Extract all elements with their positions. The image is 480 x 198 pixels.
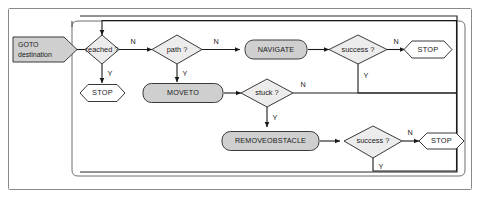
edge-label-path-yes: Y xyxy=(183,69,188,78)
flowchart-svg: path ? --> STOP (left) --> NAVIGATE --> … xyxy=(0,0,480,198)
reached-label: reached ? xyxy=(86,45,119,54)
flowchart-canvas: path ? --> STOP (left) --> NAVIGATE --> … xyxy=(0,0,480,198)
edge-success-bottom-yes xyxy=(373,158,457,171)
edge-label-success-top-yes: Y xyxy=(364,71,369,80)
start-label-line2: destination xyxy=(18,51,52,58)
success-bottom-label: success ? xyxy=(357,136,390,145)
edge-success-top-yes xyxy=(358,62,457,93)
edge-label-reached-yes: Y xyxy=(108,69,113,78)
stop-left-label: STOP xyxy=(92,88,113,97)
edge-loopback-to-reached xyxy=(102,21,457,36)
stop-bottom-right-label: STOP xyxy=(431,136,452,145)
node-stop-left[interactable]: STOP xyxy=(80,85,125,102)
success-top-label: success ? xyxy=(342,45,375,54)
navigate-label: NAVIGATE xyxy=(258,45,295,54)
node-removeobstacle[interactable]: REMOVEOBSTACLE xyxy=(222,132,319,151)
node-stop-bottom-right[interactable]: STOP xyxy=(419,133,464,149)
node-path[interactable]: path ? xyxy=(152,35,202,64)
removeobstacle-label: REMOVEOBSTACLE xyxy=(235,136,306,145)
edge-label-stuck-yes: Y xyxy=(273,113,278,122)
node-stuck[interactable]: stuck ? xyxy=(241,79,293,107)
edge-label-success-top-no: N xyxy=(393,37,398,46)
edge-label-success-bottom-yes: Y xyxy=(379,162,384,171)
node-navigate[interactable]: NAVIGATE xyxy=(245,40,307,59)
node-start[interactable]: GOTO destination xyxy=(13,37,77,62)
edge-label-success-bottom-no: N xyxy=(407,128,412,137)
path-label: path ? xyxy=(167,45,188,54)
edge-label-path-no: N xyxy=(213,37,218,46)
moveto-label: MOVETO xyxy=(167,88,199,97)
node-moveto[interactable]: MOVETO xyxy=(143,84,223,103)
node-reached[interactable]: reached ? xyxy=(85,35,119,64)
node-success-top[interactable]: success ? xyxy=(329,35,387,64)
node-stop-top-right[interactable]: STOP xyxy=(404,41,452,58)
edge-label-stuck-no: N xyxy=(300,80,305,89)
stuck-label: stuck ? xyxy=(255,88,278,97)
edge-label-reached-no: N xyxy=(130,37,135,46)
start-label-line1: GOTO xyxy=(18,41,39,48)
node-success-bottom[interactable]: success ? xyxy=(344,126,402,158)
stop-top-right-label: STOP xyxy=(418,45,439,54)
outer-frame xyxy=(9,9,472,190)
